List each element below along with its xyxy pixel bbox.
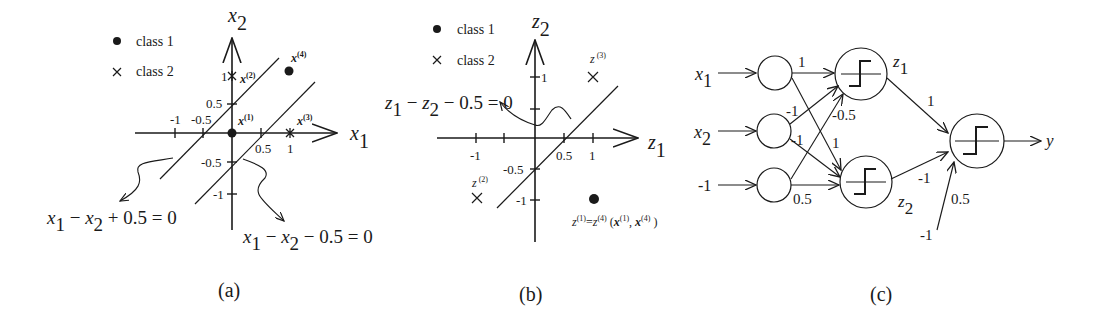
point-z2 [472,193,482,203]
class2-cross-icon [113,68,121,76]
legend-class1-label: class 1 [457,22,495,37]
svg-text:-0.5: -0.5 [503,162,524,177]
figure-canvas: class 1 class 2 x1 x2 -1 -0.5 0.5 1 1 0.… [0,0,1099,323]
y-ticks-b: 1 -0.5 -1 [503,70,548,208]
panel-b: class 1 class 2 z1 z2 -1 0.5 1 1 -0.5 -1 [384,10,666,306]
hidden-z2-label: z2 [897,192,913,218]
weight-bias-z1: -0.5 [832,107,856,123]
legend-class2-label: class 2 [457,53,495,68]
svg-text:0.5: 0.5 [556,148,572,163]
output-bias-input: -1 [920,227,933,243]
edge-x1-z2 [792,78,841,170]
output-node-y [950,114,1004,168]
point-x3-label: x(3) [296,113,313,128]
equation-left: x1 − x2 + 0.5 = 0 [46,207,177,235]
svg-text:1: 1 [221,69,228,84]
pointer-arrow-right [243,159,284,221]
svg-text:1: 1 [589,148,596,163]
boundary-line-b [497,86,618,208]
equation-right: x1 − x2 − 0.5 = 0 [242,226,373,254]
weight-bias-z2: 0.5 [793,191,812,207]
hidden-z1-label: z1 [892,52,908,78]
svg-text:0.5: 0.5 [206,96,222,111]
point-z2-label: z(2) [471,175,488,190]
point-x1-label: x(1) [237,113,254,128]
point-x4-label: x(4) [290,50,307,65]
point-x1 [228,129,237,138]
svg-text:-0.5: -0.5 [201,155,222,170]
class1-dot-icon [113,37,121,45]
x1-axis-label: x1 [349,122,369,152]
panel-c: x1 x2 -1 1 -1 -0.5 -1 1 0.5 z1 [693,48,1054,306]
output-y-label: y [1044,131,1054,150]
weight-bias-y: 0.5 [951,191,970,207]
input-bias-label: -1 [698,177,711,194]
input-node-x1 [758,56,792,90]
input-node-bias [757,168,791,202]
svg-text:1: 1 [541,70,548,85]
merged-point-label: z(1)=z(4) (x(1), x(4) ) [571,214,657,229]
hidden-node-z1 [835,48,887,100]
point-z3 [588,72,598,82]
legend-class2-label: class 2 [136,64,174,79]
weight-x2-z2: -1 [791,132,804,148]
panel-a: class 1 class 2 x1 x2 -1 -0.5 0.5 1 1 0.… [46,4,373,302]
point-x4 [285,67,294,76]
caption-a: (a) [218,279,240,302]
weight-z1-y: 1 [927,93,935,109]
svg-text:-0.5: -0.5 [191,112,212,127]
input-x1-label: x1 [694,64,712,91]
svg-text:-1: -1 [213,187,224,202]
input-x2-label: x2 [693,122,711,149]
legend-a: class 1 class 2 [113,34,174,79]
caption-b: (b) [519,283,542,306]
svg-text:0.5: 0.5 [255,141,271,156]
weight-x1-z1: 1 [798,54,806,70]
legend-b: class 1 class 2 [433,22,495,68]
weight-x2-z1: -1 [786,103,799,119]
weight-x1-z2: 1 [832,135,840,151]
caption-c: (c) [870,283,892,306]
x2-axis-label: x2 [227,4,247,34]
svg-text:-1: -1 [170,112,181,127]
pointer-arrow-left [120,158,173,201]
legend-class1-label: class 1 [136,34,174,49]
equation-b: z1 − z2 − 0.5 = 0 [384,92,513,120]
class2-cross-icon [433,56,441,64]
input-node-x2 [757,114,791,148]
svg-text:-1: -1 [470,148,481,163]
edge-z1-y [887,78,948,133]
weight-z2-y: -1 [918,170,931,186]
svg-text:1: 1 [287,141,294,156]
svg-text:-1: -1 [516,193,527,208]
z1-axis-label: z1 [647,131,666,161]
class1-dot-icon [433,25,441,33]
hidden-node-z2 [840,156,892,208]
point-z1-z4 [589,194,599,204]
point-z3-label: z(3) [589,51,606,66]
z2-axis-label: z2 [531,10,550,40]
point-x2 [228,71,236,81]
